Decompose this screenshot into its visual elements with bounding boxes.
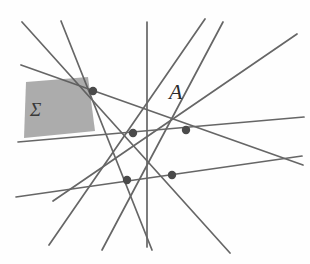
line-L4 — [102, 22, 223, 250]
region-label-sigma: Σ — [30, 99, 41, 121]
node-point — [89, 87, 97, 95]
line-L2 — [61, 21, 152, 250]
node-point — [123, 176, 131, 184]
lines-group — [16, 19, 304, 253]
node-point — [129, 129, 137, 137]
node-point — [182, 126, 190, 134]
geometry-figure: A Σ — [0, 0, 310, 264]
line-L8 — [16, 156, 302, 197]
point-label-a: A — [169, 79, 182, 105]
line-L1 — [22, 22, 230, 253]
node-point — [168, 171, 176, 179]
figure-canvas — [0, 0, 310, 264]
